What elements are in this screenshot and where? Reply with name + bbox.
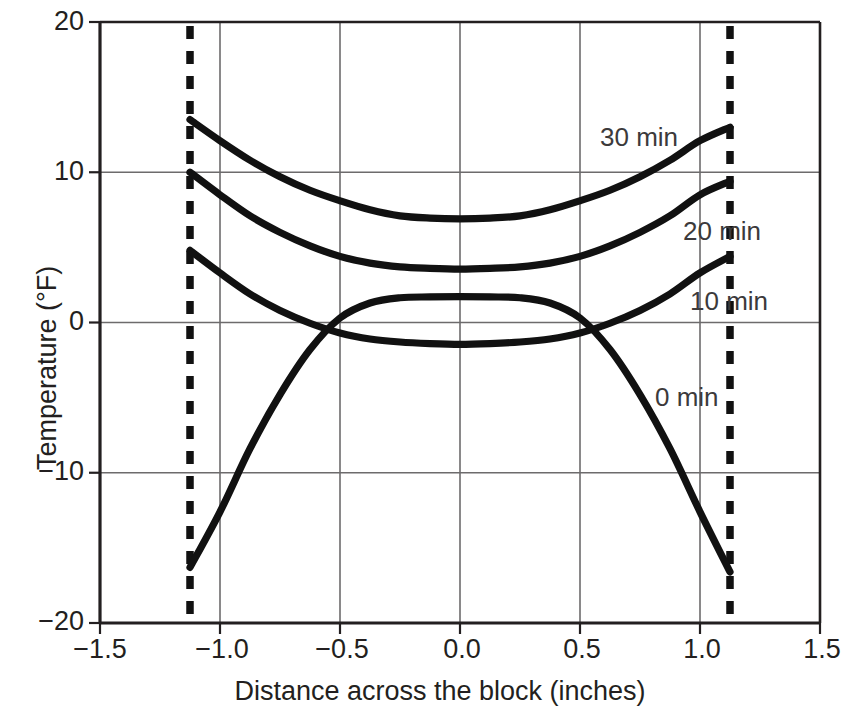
y-tick-label: −20 bbox=[6, 608, 84, 635]
curve-label-30min: 30 min bbox=[600, 124, 678, 150]
x-tick-label: −0.5 bbox=[282, 636, 402, 663]
curve-label-0min: 0 min bbox=[655, 384, 719, 410]
y-axis-label: Temperature (°F) bbox=[32, 266, 63, 470]
x-tick-label: 1.5 bbox=[762, 636, 845, 663]
y-tick-label: 10 bbox=[14, 158, 84, 185]
x-tick-label: 0.0 bbox=[402, 636, 522, 663]
curve-label-10min: 10 min bbox=[690, 288, 768, 314]
x-tick-label: 0.5 bbox=[522, 636, 642, 663]
axis-ticks bbox=[89, 22, 820, 634]
x-tick-label: 1.0 bbox=[642, 636, 762, 663]
y-tick-label: 20 bbox=[14, 8, 84, 35]
x-axis-label: Distance across the block (inches) bbox=[160, 676, 720, 707]
x-tick-label: −1.0 bbox=[162, 636, 282, 663]
x-tick-label: −1.5 bbox=[40, 636, 160, 663]
curve-label-20min: 20 min bbox=[683, 218, 761, 244]
